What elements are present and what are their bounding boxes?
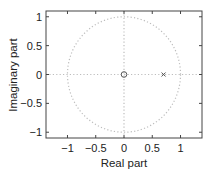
x-axis-label: Real part	[101, 157, 148, 169]
guide-lines	[46, 11, 202, 138]
y-tick-label: 0.5	[27, 40, 42, 52]
x-tick-label: 0	[121, 142, 127, 154]
x-tick-label: −1	[61, 142, 74, 154]
y-tick-label: −1	[29, 126, 42, 138]
axis-ticks: −1−0.500.5110.50−0.5−1	[20, 11, 202, 154]
x-tick-label: 0.5	[145, 142, 160, 154]
x-tick-label: 1	[177, 142, 183, 154]
y-tick-label: 1	[36, 11, 42, 23]
y-axis-label: Imaginary part	[7, 37, 19, 111]
y-tick-label: −0.5	[20, 97, 42, 109]
y-tick-label: 0	[36, 69, 42, 81]
x-tick-label: −0.5	[85, 142, 107, 154]
pole-zero-plot: −1−0.500.5110.50−0.5−1 Real part Imagina…	[0, 0, 214, 171]
